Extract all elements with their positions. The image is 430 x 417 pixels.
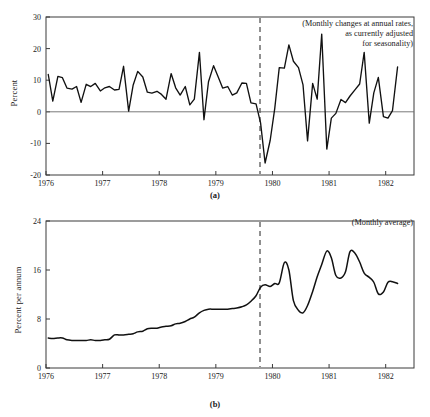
svg-a-x-tick-label: 1980	[264, 179, 280, 188]
svg-a-x-tick-label: 1981	[321, 179, 337, 188]
svg-b-x-tick-label: 1980	[264, 372, 280, 381]
chart-b-canvas: 0816241976197719781979198019811982	[0, 205, 430, 417]
chart-a-annotation: (Monthly changes at annual rates, as cur…	[213, 19, 413, 50]
chart-b-y-axis-label: Percent per annum	[13, 250, 23, 350]
chart-b-annotation: (Monthly average)	[243, 218, 413, 228]
svg-b-y-tick-label: 16	[33, 266, 41, 275]
svg-a-x-tick-label: 1977	[95, 179, 111, 188]
svg-a-x-tick-label: 1978	[151, 179, 167, 188]
figure-root: -20-100102030197619771978197919801981198…	[0, 0, 430, 417]
svg-b-frame	[46, 221, 414, 368]
svg-a-y-tick-label: 10	[33, 76, 41, 85]
svg-b-y-tick-label: 24	[33, 217, 41, 226]
svg-b-x-tick-label: 1978	[151, 372, 167, 381]
svg-b-y-tick-label: 8	[37, 315, 41, 324]
svg-a-x-tick-label: 1982	[378, 179, 394, 188]
svg-b-x-tick-label: 1976	[38, 372, 54, 381]
chart-panel-b: 0816241976197719781979198019811982	[0, 205, 430, 417]
svg-b-x-tick-label: 1977	[95, 372, 111, 381]
svg-a-x-tick-label: 1979	[208, 179, 224, 188]
chart-panel-a: -20-100102030197619771978197919801981198…	[0, 0, 430, 210]
svg-b-x-tick-label: 1979	[208, 372, 224, 381]
svg-b-data-series	[48, 250, 397, 340]
svg-a-data-series	[48, 34, 397, 163]
svg-a-y-tick-label: 30	[33, 13, 41, 22]
svg-a-y-tick-label: 0	[37, 108, 41, 117]
svg-a-y-tick-label: 20	[33, 45, 41, 54]
svg-b-x-tick-label: 1981	[321, 372, 337, 381]
svg-a-y-tick-label: -10	[30, 139, 41, 148]
svg-b-x-tick-label: 1982	[378, 372, 394, 381]
panel-b-caption: (b)	[0, 399, 430, 409]
chart-a-y-axis-label: Percent	[9, 63, 19, 123]
panel-a-caption: (a)	[0, 190, 430, 200]
svg-a-x-tick-label: 1976	[38, 179, 54, 188]
